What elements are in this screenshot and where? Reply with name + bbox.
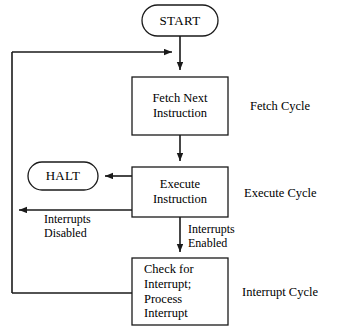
- halt-node-shape: [28, 162, 98, 190]
- start-node-shape: [142, 5, 218, 36]
- execute-node-shape: [132, 167, 228, 217]
- interrupt-node-shape: [132, 258, 228, 325]
- flowchart-canvas: START Fetch Next Instruction HALT Execut…: [0, 0, 344, 335]
- execute-cycle-label: Execute Cycle: [244, 186, 317, 201]
- fetch-cycle-label: Fetch Cycle: [250, 99, 310, 114]
- fetch-node-shape: [132, 77, 228, 135]
- interrupt-cycle-label: Interrupt Cycle: [242, 285, 318, 300]
- edge-label-interrupts-enabled: Interrupts Enabled: [188, 222, 235, 251]
- edge-label-interrupts-disabled: Interrupts Disabled: [44, 212, 91, 241]
